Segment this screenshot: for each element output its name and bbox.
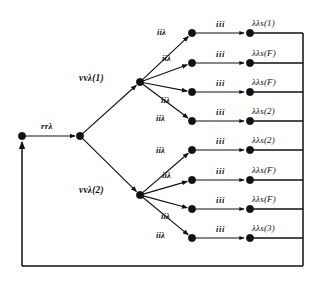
branch-node-2 <box>136 191 143 198</box>
terminal-node-6 <box>246 176 253 183</box>
terminal-label-4: λλs(2) <box>252 107 275 116</box>
edge-branch-1-to-leaf-3 <box>142 82 187 91</box>
terminal-node-5 <box>246 146 253 153</box>
leaf-node-3 <box>188 88 195 95</box>
leaf-node-8 <box>188 234 195 241</box>
fan-edge-label-2: iiλ <box>162 54 171 63</box>
branch-node-1 <box>136 78 143 85</box>
leaf-node-1 <box>188 29 195 36</box>
edge-label-iii-2: iii <box>216 50 225 59</box>
fan-edge-label-6: iiλ <box>162 171 171 180</box>
terminal-node-3 <box>246 88 253 95</box>
edge-label-iii-8: iii <box>216 225 225 234</box>
fan-edge-label-5: iiλ <box>156 146 165 155</box>
terminal-node-7 <box>246 205 253 212</box>
leaf-node-6 <box>188 176 195 183</box>
leaf-node-5 <box>188 146 195 153</box>
fan-edge-label-8: iiλ <box>156 231 165 240</box>
terminal-node-2 <box>246 59 253 66</box>
leaf-node-4 <box>188 117 195 124</box>
terminal-node-8 <box>246 234 253 241</box>
terminal-label-8: λλs(3) <box>252 224 275 233</box>
terminal-node-1 <box>246 29 253 36</box>
leaf-node-7 <box>188 205 195 212</box>
edge-group <box>24 33 244 238</box>
terminal-label-5: λλs(2) <box>252 136 275 145</box>
edge-label-iii-6: iii <box>216 167 225 176</box>
fan-edge-label-1: iiλ <box>157 28 166 37</box>
terminal-label-2: λλs(F) <box>252 49 276 58</box>
edge-branch-2-to-leaf-3 <box>142 196 187 208</box>
split-node <box>76 132 83 139</box>
branch-label-2: vvλ(2) <box>79 186 104 196</box>
edge-label-iii-5: iii <box>216 137 225 146</box>
terminal-label-6: λλs(F) <box>252 166 276 175</box>
root-node <box>18 132 25 139</box>
edge-label-iii-3: iii <box>216 79 225 88</box>
terminal-label-1: λλs(1) <box>252 19 275 28</box>
edge-label-rr-lambda: rrλ <box>41 122 53 131</box>
terminal-node-4 <box>246 117 253 124</box>
edge-split-to-branch-2 <box>82 138 137 192</box>
leaf-node-2 <box>188 59 195 66</box>
terminal-label-7: λλs(F) <box>252 195 276 204</box>
diagram-canvas: rrλvvλ(1)vvλ(2)iiλiiiλλs(1)iiλiiiλλs(F)i… <box>0 0 321 281</box>
fan-edge-label-4: iiλ <box>156 114 165 123</box>
edge-label-iii-7: iii <box>216 196 225 205</box>
edge-label-iii-4: iii <box>216 108 225 117</box>
terminal-label-3: λλs(F) <box>252 78 276 87</box>
branch-label-1: vvλ(1) <box>79 74 104 84</box>
edge-split-to-branch-1 <box>82 85 137 134</box>
fan-edge-label-7: iiλ <box>161 212 170 221</box>
fan-edge-label-3: iiλ <box>161 96 170 105</box>
edge-label-iii-1: iii <box>216 20 225 29</box>
